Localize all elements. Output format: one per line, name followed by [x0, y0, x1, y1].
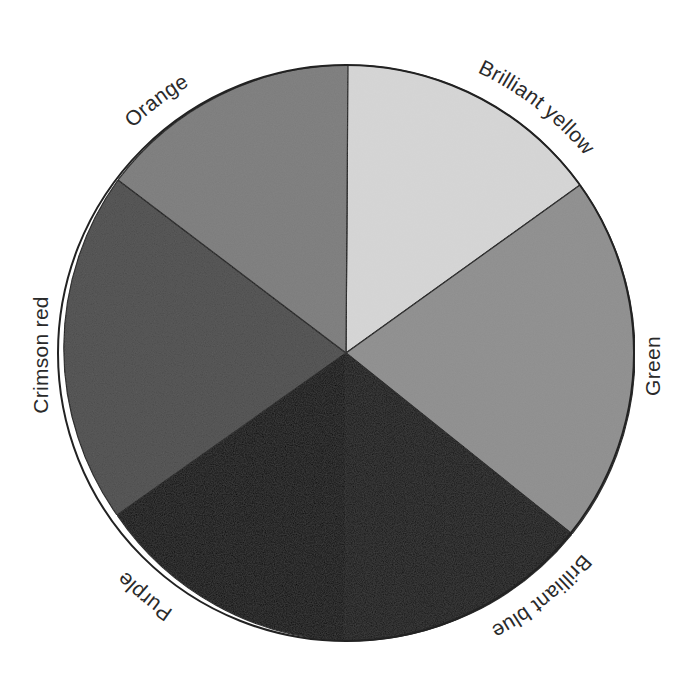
label-crimson-red: Crimson red: [29, 296, 52, 414]
label-purple: Purple: [112, 568, 176, 626]
color-wheel: Orange Brilliant yellow Purple Brilliant…: [0, 0, 700, 698]
label-green: Green: [641, 336, 664, 396]
